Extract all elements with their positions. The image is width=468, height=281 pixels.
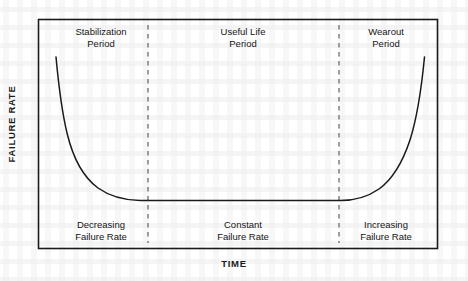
plot-frame bbox=[39, 20, 438, 249]
top-label-stabilization-period: Stabilization Period bbox=[53, 26, 149, 49]
y-axis-label: FAILURE RATE bbox=[6, 86, 17, 163]
x-axis-label: TIME bbox=[0, 258, 468, 269]
top-label-stabilization-line1: Stabilization bbox=[75, 26, 126, 37]
bottom-label-constant-line1: Constant bbox=[224, 219, 262, 230]
top-label-wearout-line1: Wearout bbox=[368, 26, 404, 37]
bottom-label-constant-failure-rate: Constant Failure Rate bbox=[195, 219, 291, 242]
bottom-label-increasing-line2: Failure Rate bbox=[340, 231, 432, 243]
failure-rate-curve bbox=[56, 57, 425, 201]
bottom-label-increasing-failure-rate: Increasing Failure Rate bbox=[340, 219, 432, 242]
bottom-label-increasing-line1: Increasing bbox=[364, 219, 408, 230]
bottom-label-decreasing-line2: Failure Rate bbox=[53, 231, 149, 243]
bottom-label-constant-line2: Failure Rate bbox=[195, 231, 291, 243]
top-label-wearout-line2: Period bbox=[340, 38, 432, 50]
top-label-useful-life-line1: Useful Life bbox=[221, 26, 266, 37]
top-label-useful-life-period: Useful Life Period bbox=[195, 26, 291, 49]
bottom-label-decreasing-line1: Decreasing bbox=[77, 219, 125, 230]
bottom-label-decreasing-failure-rate: Decreasing Failure Rate bbox=[53, 219, 149, 242]
top-label-wearout-period: Wearout Period bbox=[340, 26, 432, 49]
top-label-stabilization-line2: Period bbox=[53, 38, 149, 50]
top-label-useful-life-line2: Period bbox=[195, 38, 291, 50]
bathtub-curve-figure: FAILURE RATE TIME Stabilization Period U… bbox=[0, 0, 468, 281]
